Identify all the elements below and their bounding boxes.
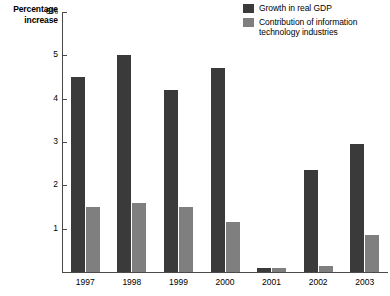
bar-2002-it	[319, 266, 333, 273]
bar-2002-gdp	[304, 170, 318, 272]
bar-1997-gdp	[71, 77, 85, 272]
bar-1998-gdp	[117, 55, 131, 272]
bar-group	[117, 12, 146, 272]
x-axis-label-2001: 2001	[247, 277, 297, 287]
x-axis-label-1999: 1999	[153, 277, 203, 287]
bar-group	[257, 12, 286, 272]
bar-group	[71, 12, 100, 272]
y-tick-label: 3	[18, 137, 58, 146]
bar-2003-it	[365, 235, 379, 272]
bar-1999-it	[179, 207, 193, 272]
bar-1997-it	[86, 207, 100, 272]
y-tick-label: 2	[18, 180, 58, 189]
y-tick-label: 5	[18, 50, 58, 59]
bar-chart: Percentage increase Growth in real GDP C…	[0, 0, 390, 296]
bar-group	[211, 12, 240, 272]
plot-area	[62, 12, 388, 272]
bar-1998-it	[132, 203, 146, 272]
bar-group	[350, 12, 379, 272]
x-axis-label-2003: 2003	[340, 277, 390, 287]
bar-2000-gdp	[211, 68, 225, 272]
bar-2001-it	[272, 268, 286, 272]
y-tick-label: 1	[18, 224, 58, 233]
bar-group	[164, 12, 193, 272]
bar-2001-gdp	[257, 268, 271, 272]
y-tick-label: 4	[18, 94, 58, 103]
y-tick-label: 6%	[18, 7, 58, 16]
bar-group	[304, 12, 333, 272]
bar-1999-gdp	[164, 90, 178, 272]
x-axis-label-1998: 1998	[107, 277, 157, 287]
x-axis-label-1997: 1997	[60, 277, 110, 287]
x-axis-label-2002: 2002	[293, 277, 343, 287]
bar-2003-gdp	[350, 144, 364, 272]
y-axis-title-line2: increase	[0, 15, 58, 26]
x-axis-label-2000: 2000	[200, 277, 250, 287]
bar-2000-it	[226, 222, 240, 272]
x-axis-line	[62, 272, 388, 273]
